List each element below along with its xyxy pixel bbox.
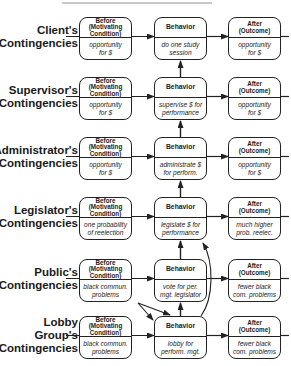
behavior-text: do one studysession (155, 38, 206, 59)
text-line: opportunity (238, 41, 271, 49)
text-line: fewer black (233, 283, 276, 291)
before-box: Before(MotivatingCondition)opportunityfo… (79, 137, 132, 180)
before-text: opportunityfor $ (80, 38, 131, 59)
text-line: of reelection (84, 229, 127, 237)
text-line: for $ (89, 169, 122, 177)
top-rule (62, 2, 212, 4)
behavior-box: Behavioradministrate $for perform. (154, 137, 207, 180)
after-header: After(Outcome) (229, 138, 280, 157)
text-line: problems (83, 348, 127, 356)
row-label-line: Contingencies (0, 342, 78, 355)
after-box: After(Outcome)fewer blackcom. problems (228, 259, 281, 302)
after-text: fewer blackcom. problems (229, 337, 280, 358)
text-line: for $ (89, 109, 122, 117)
behavior-text: vote for per.mgt. legislator (155, 280, 206, 301)
behavior-header: Behavior (155, 138, 206, 157)
text-line: much higher (236, 221, 273, 229)
before-box: Before(MotivatingCondition)black commun.… (79, 316, 132, 359)
text-line: opportunity (238, 161, 271, 169)
text-line: opportunity (89, 101, 122, 109)
text-line: for perform. (160, 169, 201, 177)
text-line: opportunity (238, 101, 271, 109)
behavior-text: legislate $ forperformance (155, 218, 206, 239)
header-line: (Outcome) (239, 148, 271, 155)
behavior-box: Behaviorsupervise $ forperformance (154, 77, 207, 120)
text-line: performance (159, 109, 202, 117)
row-label-line: Public's (0, 266, 78, 279)
row-label-line: Contingencies (0, 279, 78, 292)
text-line: prob. reelec. (236, 229, 273, 237)
before-box: Before(MotivatingCondition)one probabili… (79, 197, 132, 240)
after-box: After(Outcome)opportunityfor $ (228, 17, 281, 60)
before-header: Before(MotivatingCondition) (80, 317, 131, 336)
text-line: perform. mgt. (161, 348, 200, 356)
text-line: do one study (162, 41, 200, 49)
row-label-line: Contingencies (0, 217, 78, 230)
before-header: Before(MotivatingCondition) (80, 198, 131, 217)
header-line: (Outcome) (239, 208, 271, 215)
text-line: black commun. (83, 283, 127, 291)
header-line: Behavior (166, 266, 195, 273)
text-line: supervise $ for (159, 101, 202, 109)
behavior-text: supervise $ forperformance (155, 98, 206, 119)
header-line: (Outcome) (239, 270, 271, 277)
header-line: (Outcome) (239, 88, 271, 95)
before-text: one probabilityof reelection (80, 218, 131, 239)
text-line: com. problems (233, 348, 276, 356)
header-line: (Outcome) (239, 28, 271, 35)
row-label-line: Contingencies (0, 37, 78, 50)
row-label: LobbyGroup'sContingencies (0, 316, 78, 355)
before-text: black commun.problems (80, 280, 131, 301)
text-line: one probability (84, 221, 127, 229)
behavior-header: Behavior (155, 317, 206, 336)
text-line: com. problems (233, 291, 276, 299)
after-box: After(Outcome)much higherprob. reelec. (228, 197, 281, 240)
behavior-box: Behaviordo one studysession (154, 17, 207, 60)
text-line: opportunity (89, 161, 122, 169)
after-text: fewer blackcom. problems (229, 280, 280, 301)
header-line: (Outcome) (239, 327, 271, 334)
after-text: much higherprob. reelec. (229, 218, 280, 239)
row-label: Client'sContingencies (0, 24, 78, 50)
behavior-box: Behaviorlegislate $ forperformance (154, 197, 207, 240)
before-text: black commun.problems (80, 337, 131, 358)
behavior-box: Behaviorlobby forperform. mgt. (154, 316, 207, 359)
behavior-text: lobby forperform. mgt. (155, 337, 206, 358)
row-label-line: Contingencies (0, 97, 78, 110)
text-line: problems (83, 291, 127, 299)
text-line: lobby for (161, 340, 200, 348)
after-header: After(Outcome) (229, 260, 280, 279)
after-box: After(Outcome)opportunityfor $ (228, 137, 281, 180)
text-line: legislate $ for (161, 221, 200, 229)
row-label-line: Client's (0, 24, 78, 37)
row-label: Public'sContingencies (0, 266, 78, 292)
before-header: Before(MotivatingCondition) (80, 18, 131, 37)
after-header: After(Outcome) (229, 78, 280, 97)
row-label: Supervisor'sContingencies (0, 84, 78, 110)
row-label: Administrator'sContingencies (0, 144, 78, 170)
behavior-header: Behavior (155, 260, 206, 279)
header-line: Behavior (166, 144, 195, 151)
after-text: opportunityfor $ (229, 158, 280, 179)
header-line: Behavior (166, 84, 195, 91)
before-box: Before(MotivatingCondition)black commun.… (79, 259, 132, 302)
row-label-line: Supervisor's (0, 84, 78, 97)
after-text: opportunityfor $ (229, 98, 280, 119)
text-line: administrate $ (160, 161, 201, 169)
row-label-line: Lobby (0, 316, 78, 329)
after-box: After(Outcome)opportunityfor $ (228, 77, 281, 120)
after-box: After(Outcome)fewer blackcom. problems (228, 316, 281, 359)
text-line: for $ (238, 109, 271, 117)
before-text: opportunityfor $ (80, 98, 131, 119)
text-line: session (162, 49, 200, 57)
behavior-header: Behavior (155, 78, 206, 97)
text-line: vote for per. (160, 283, 201, 291)
header-line: Behavior (166, 204, 195, 211)
text-line: mgt. legislator (160, 291, 201, 299)
row-label-line: Contingencies (0, 157, 78, 170)
text-line: for $ (238, 169, 271, 177)
behavior-box: Behaviorvote for per.mgt. legislator (154, 259, 207, 302)
row-label-line: Group's (0, 329, 78, 342)
before-box: Before(MotivatingCondition)opportunityfo… (79, 77, 132, 120)
header-line: Behavior (166, 24, 195, 31)
